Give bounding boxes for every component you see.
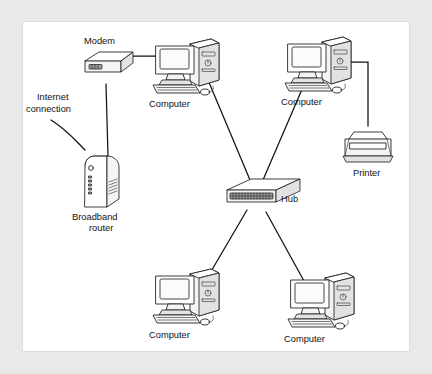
computer-bottom-left-label: Computer xyxy=(149,330,190,340)
link-hub-to-computer-bottom-right xyxy=(266,212,304,281)
printer-label: Printer xyxy=(353,168,380,178)
computer-top-right-icon[interactable] xyxy=(285,37,351,93)
figure-frame: Modem xyxy=(0,0,432,374)
network-diagram: Modem xyxy=(23,22,409,351)
link-internet-to-router xyxy=(51,120,85,150)
hub-label: Hub xyxy=(281,194,298,204)
modem-icon[interactable] xyxy=(85,52,133,72)
broadband-router-icon[interactable] xyxy=(85,156,119,207)
modem-label: Modem xyxy=(84,36,115,46)
computer-bottom-right-icon[interactable] xyxy=(288,273,354,329)
printer-icon[interactable] xyxy=(343,132,393,162)
link-computer-top-right-to-hub xyxy=(263,80,306,180)
computer-bottom-right-label: Computer xyxy=(284,334,325,344)
computer-top-left-icon[interactable] xyxy=(153,39,219,95)
computer-top-right-label: Computer xyxy=(281,97,322,107)
computer-top-left-label: Computer xyxy=(149,99,190,109)
computer-bottom-left-icon[interactable] xyxy=(153,269,219,325)
diagram-panel: Modem xyxy=(22,21,410,352)
internet-connection-label-line1: Internet xyxy=(37,92,69,102)
internet-connection-label-line2: connection xyxy=(26,104,71,114)
link-computer-top-left-to-hub xyxy=(208,80,250,180)
broadband-router-label-line1: Broadband xyxy=(72,212,118,222)
link-modem-to-router xyxy=(106,84,108,156)
broadband-router-label-line2: router xyxy=(89,223,113,233)
